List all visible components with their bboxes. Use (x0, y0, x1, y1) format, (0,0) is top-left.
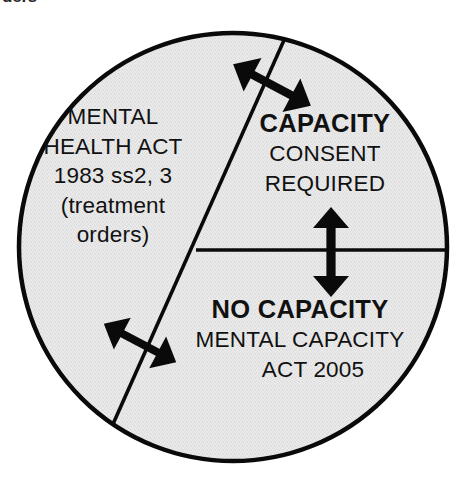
mha-line-3: 1983 ss2, 3 (18, 163, 208, 190)
no-capacity-line-1: MENTAL CAPACITY (178, 327, 422, 354)
no-capacity-line-2: ACT 2005 (178, 357, 422, 384)
mha-line-4: (treatment (18, 193, 208, 220)
mha-line-1: MENTAL (18, 104, 208, 131)
capacity-line-2: REQUIRED (215, 171, 435, 198)
diagram-stage: ders (0, 0, 468, 487)
sector-label-capacity: CAPACITY CONSENT REQUIRED (215, 108, 435, 200)
sector-label-mental-health-act: MENTAL HEALTH ACT 1983 ss2, 3 (treatment… (18, 104, 208, 252)
mha-line-2: HEALTH ACT (18, 134, 208, 161)
no-capacity-heading: NO CAPACITY (178, 294, 422, 324)
capacity-line-1: CONSENT (215, 141, 435, 168)
sector-label-no-capacity: NO CAPACITY MENTAL CAPACITY ACT 2005 (178, 294, 422, 386)
mha-line-5: orders) (18, 222, 208, 249)
capacity-heading: CAPACITY (215, 108, 435, 138)
